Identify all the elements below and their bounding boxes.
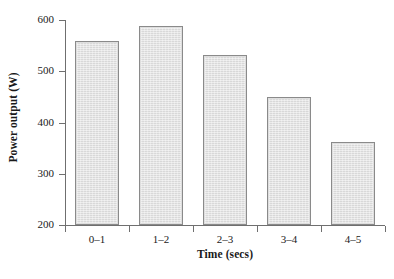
y-tick-label: 300 xyxy=(14,167,54,179)
x-tick-label: 2–3 xyxy=(193,233,257,245)
x-tick-mark xyxy=(193,226,194,232)
x-tick-label: 3–4 xyxy=(257,233,321,245)
x-tick-mark-origin xyxy=(65,226,66,232)
x-tick-mark xyxy=(129,226,130,232)
bar xyxy=(203,55,247,225)
bar-chart-figure: Power output (W) 200300400500600 0–11–22… xyxy=(0,0,394,279)
x-tick-label: 4–5 xyxy=(321,233,385,245)
y-tick-label: 600 xyxy=(14,13,54,25)
x-tick-label: 1–2 xyxy=(129,233,193,245)
y-tick-label: 200 xyxy=(14,218,54,230)
x-tick-label: 0–1 xyxy=(65,233,129,245)
y-tick-mark xyxy=(59,71,66,72)
bar xyxy=(75,41,119,226)
y-tick-label: 500 xyxy=(14,64,54,76)
bar xyxy=(331,142,375,225)
x-axis-title: Time (secs) xyxy=(65,248,385,260)
y-tick-label: 400 xyxy=(14,116,54,128)
y-tick-mark xyxy=(59,123,66,124)
y-axis-title: Power output (W) xyxy=(0,0,26,279)
y-tick-mark xyxy=(59,20,66,21)
x-tick-mark xyxy=(385,226,386,232)
y-tick-mark xyxy=(59,174,66,175)
x-tick-mark xyxy=(257,226,258,232)
x-axis-line xyxy=(65,225,385,226)
bar xyxy=(139,26,183,225)
x-tick-mark xyxy=(321,226,322,232)
bar xyxy=(267,97,311,225)
